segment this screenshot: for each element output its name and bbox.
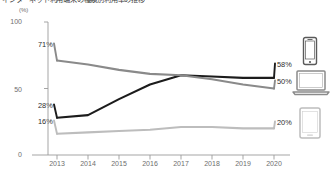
series-line-pc-laptop (57, 61, 274, 89)
series-line-tablet (57, 127, 274, 134)
data-series-group (57, 61, 274, 134)
x-tick-marks (57, 155, 274, 160)
leader-smartphone (274, 64, 275, 78)
leader-start-tablet (54, 121, 57, 134)
leader-pc-laptop (274, 81, 275, 89)
smartphone-icon (300, 36, 320, 70)
line-chart: インターネット利用端末の種類別利用率の推移 (%) 100 50 0 2013 … (0, 0, 334, 176)
label-leader-lines (54, 44, 275, 134)
tablet-icon (297, 106, 323, 146)
leader-start-pc-laptop (54, 44, 57, 61)
plot-area (0, 0, 334, 176)
leader-start-smartphone (54, 105, 57, 118)
series-line-smartphone (57, 75, 274, 118)
leader-tablet (274, 122, 275, 129)
laptop-icon (291, 68, 331, 102)
